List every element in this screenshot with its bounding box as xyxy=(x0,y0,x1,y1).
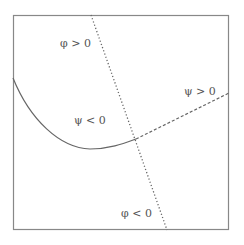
label-psi-positive: ψ > 0 xyxy=(184,85,216,98)
plot-frame xyxy=(14,16,229,230)
label-phi-negative: φ < 0 xyxy=(121,207,152,220)
region-diagram: φ > 0 ψ > 0 ψ < 0 φ < 0 xyxy=(0,0,244,245)
label-psi-negative: ψ < 0 xyxy=(74,114,106,127)
psi-zero-curve-dashed xyxy=(136,93,229,139)
label-phi-positive: φ > 0 xyxy=(60,37,91,50)
